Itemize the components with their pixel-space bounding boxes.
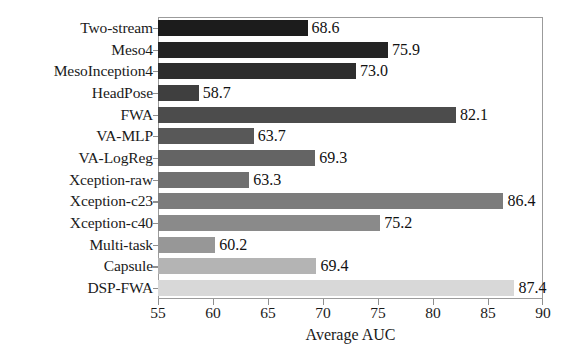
bar — [158, 193, 503, 209]
bar — [158, 63, 356, 79]
bar-value-label: 68.6 — [312, 20, 340, 36]
bar — [158, 20, 308, 36]
y-axis-label: VA-MLP — [0, 128, 153, 143]
x-axis-title: Average AUC — [158, 326, 543, 343]
y-axis-label: Meso4 — [0, 42, 153, 57]
bar-value-label: 60.2 — [219, 237, 247, 253]
y-axis-label: FWA — [0, 107, 153, 122]
bar — [158, 85, 199, 101]
bar-value-label: 75.2 — [384, 215, 412, 231]
x-axis-tick-label: 70 — [315, 305, 331, 321]
bar-value-label: 58.7 — [203, 85, 231, 101]
bar — [158, 280, 514, 296]
bar-value-label: 73.0 — [360, 63, 388, 79]
bar-value-label: 82.1 — [460, 107, 488, 123]
y-axis-label: VA-LogReg — [0, 150, 153, 165]
bar — [158, 128, 254, 144]
y-axis-label: MesoInception4 — [0, 63, 153, 78]
y-axis-label: Xception-raw — [0, 172, 153, 187]
bar — [158, 237, 215, 253]
x-axis-tick-label: 65 — [260, 305, 276, 321]
bar-value-label: 63.3 — [253, 172, 281, 188]
bar — [158, 42, 388, 58]
bar-value-label: 87.4 — [518, 280, 546, 296]
x-axis-tick-label: 85 — [480, 305, 496, 321]
bar-chart: Two-streamMeso4MesoInception4HeadPoseFWA… — [0, 0, 571, 353]
bar — [158, 107, 456, 123]
y-axis-category-labels: Two-streamMeso4MesoInception4HeadPoseFWA… — [0, 17, 153, 299]
x-axis-tick-label: 60 — [205, 305, 221, 321]
y-axis-label: Xception-c40 — [0, 215, 153, 230]
y-axis-label: HeadPose — [0, 85, 153, 100]
x-axis-tick-label: 90 — [535, 305, 551, 321]
bar-value-label: 86.4 — [507, 193, 535, 209]
x-axis-tick-label: 75 — [370, 305, 386, 321]
bar — [158, 172, 249, 188]
bar-value-label: 69.4 — [320, 258, 348, 274]
y-axis-label: Multi-task — [0, 237, 153, 252]
bar-value-label: 69.3 — [319, 150, 347, 166]
x-axis-ticks: 5560657075808590 — [158, 299, 543, 307]
y-axis-label: Xception-c23 — [0, 193, 153, 208]
y-axis-label: Capsule — [0, 258, 153, 273]
bar — [158, 215, 380, 231]
bar-value-label: 75.9 — [392, 42, 420, 58]
bars-layer: 68.675.973.058.782.163.769.363.386.475.2… — [158, 17, 543, 299]
bar — [158, 150, 315, 166]
x-axis-tick-label: 80 — [425, 305, 441, 321]
x-axis-tick-label: 55 — [150, 305, 166, 321]
bar — [158, 258, 316, 274]
y-axis-label: Two-stream — [0, 20, 153, 35]
bar-value-label: 63.7 — [258, 128, 286, 144]
y-axis-label: DSP-FWA — [0, 280, 153, 295]
